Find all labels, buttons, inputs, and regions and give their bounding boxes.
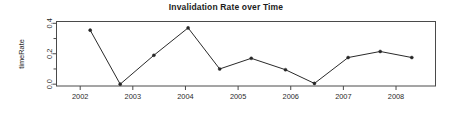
y-axis-title: timeRate — [17, 39, 26, 69]
data-point — [152, 54, 155, 57]
x-tick-label: 2006 — [283, 92, 299, 101]
data-point — [313, 82, 316, 85]
series-markers-timerate — [89, 26, 414, 85]
data-point — [410, 56, 413, 59]
y-axis-tick-marks — [53, 23, 57, 84]
data-point — [119, 83, 122, 86]
x-tick-label: 2008 — [388, 92, 404, 101]
data-point — [379, 50, 382, 53]
data-point — [250, 57, 253, 60]
data-point — [218, 67, 221, 70]
x-tick-label: 2003 — [125, 92, 141, 101]
plot-frame-box — [57, 22, 436, 87]
chart-figure: Invalidation Rate over Time timeRate 0.0… — [0, 0, 452, 114]
data-point — [347, 56, 350, 59]
x-axis-tick-labels: 2002200320042005200620072008 — [72, 92, 404, 101]
x-tick-label: 2007 — [335, 92, 351, 101]
x-axis-tick-marks — [80, 86, 396, 90]
x-tick-label: 2005 — [230, 92, 246, 101]
x-tick-label: 2004 — [177, 92, 193, 101]
y-axis-title-label: timeRate — [17, 39, 26, 69]
data-point — [187, 26, 190, 29]
data-point — [89, 29, 92, 32]
series-line-timerate — [90, 28, 412, 84]
data-point — [284, 68, 287, 71]
line-chart-plot: timeRate 0.00.20.4 200220032004200520062… — [0, 0, 452, 114]
x-tick-label: 2002 — [72, 92, 88, 101]
